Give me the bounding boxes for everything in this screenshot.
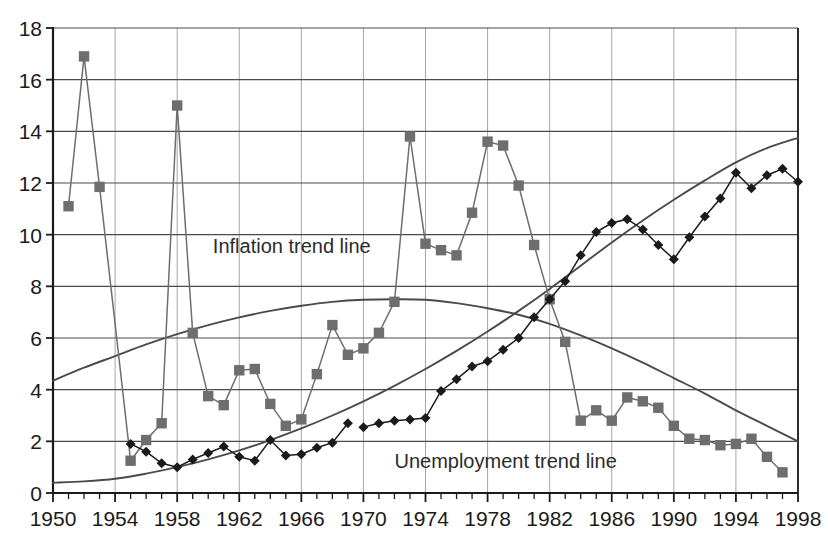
data-point-marker xyxy=(591,227,601,237)
data-point-marker xyxy=(451,250,461,260)
data-point-marker xyxy=(622,392,632,402)
data-point-marker xyxy=(358,343,368,353)
data-point-marker xyxy=(436,245,446,255)
x-axis-tick-label: 1954 xyxy=(92,507,139,530)
data-point-marker xyxy=(234,452,244,462)
data-point-marker xyxy=(746,434,756,444)
x-axis-tick-label: 1998 xyxy=(775,507,822,530)
inflation-unemployment-chart: 024681012141618 195019541958196219661970… xyxy=(0,0,828,551)
chart-annotations: Inflation trend lineUnemployment trend l… xyxy=(213,235,617,473)
data-point-marker xyxy=(653,403,663,413)
x-axis-tick-label: 1950 xyxy=(30,507,77,530)
data-point-marker xyxy=(420,239,430,249)
data-point-marker xyxy=(312,443,322,453)
x-axis-tick-label: 1958 xyxy=(154,507,201,530)
data-point-marker xyxy=(777,467,787,477)
data-point-marker xyxy=(203,448,213,458)
data-point-marker xyxy=(482,136,492,146)
x-axis-tick-label: 1966 xyxy=(278,507,325,530)
data-point-marker xyxy=(327,320,337,330)
data-point-marker xyxy=(467,208,477,218)
x-axis-labels: 1950195419581962196619701974197819821986… xyxy=(30,507,822,530)
data-point-marker xyxy=(187,328,197,338)
data-point-marker xyxy=(172,100,182,110)
data-point-marker xyxy=(421,413,431,423)
y-axis-tick-label: 18 xyxy=(19,17,42,40)
data-point-marker xyxy=(684,434,694,444)
y-axis-tick-label: 6 xyxy=(30,327,42,350)
data-point-marker xyxy=(498,140,508,150)
data-point-marker xyxy=(141,435,151,445)
data-point-marker xyxy=(374,328,384,338)
data-point-marker xyxy=(405,414,415,424)
data-point-marker xyxy=(405,131,415,141)
data-point-marker xyxy=(669,421,679,431)
data-point-marker xyxy=(607,218,617,228)
data-point-marker xyxy=(219,442,229,452)
data-point-marker xyxy=(576,250,586,260)
data-point-marker xyxy=(125,456,135,466)
data-point-marker xyxy=(607,415,617,425)
y-axis-tick-label: 2 xyxy=(30,430,42,453)
data-point-marker xyxy=(343,350,353,360)
x-axis-tick-label: 1994 xyxy=(713,507,760,530)
data-point-marker xyxy=(389,416,399,426)
data-point-marker xyxy=(715,440,725,450)
y-axis-tick-label: 14 xyxy=(19,120,43,143)
x-axis-tick-label: 1982 xyxy=(526,507,573,530)
data-point-marker xyxy=(560,337,570,347)
data-point-marker xyxy=(700,435,710,445)
data-point-marker xyxy=(296,449,306,459)
y-axis-tick-label: 12 xyxy=(19,172,42,195)
data-point-marker xyxy=(576,415,586,425)
series-line xyxy=(363,169,798,427)
x-axis-tick-label: 1986 xyxy=(588,507,635,530)
data-point-marker xyxy=(638,396,648,406)
data-point-marker xyxy=(374,418,384,428)
data-point-marker xyxy=(234,365,244,375)
data-point-marker xyxy=(219,400,229,410)
chart-annotation-label: Unemployment trend line xyxy=(394,450,616,472)
y-axis-tick-label: 0 xyxy=(30,482,42,505)
x-axis-tick-label: 1970 xyxy=(340,507,387,530)
data-point-marker xyxy=(762,452,772,462)
data-point-marker xyxy=(513,180,523,190)
series-unemployment xyxy=(126,164,803,472)
x-axis-tick-label: 1978 xyxy=(464,507,511,530)
data-point-marker xyxy=(250,364,260,374)
x-axis-tick-label: 1990 xyxy=(650,507,697,530)
data-point-marker xyxy=(265,399,275,409)
x-axis-tick-label: 1974 xyxy=(402,507,449,530)
data-point-marker xyxy=(63,201,73,211)
data-point-marker xyxy=(529,240,539,250)
data-point-marker xyxy=(622,214,632,224)
x-axis-tick-label: 1962 xyxy=(216,507,263,530)
y-axis-tick-label: 8 xyxy=(30,275,42,298)
data-point-marker xyxy=(126,439,136,449)
data-point-marker xyxy=(296,414,306,424)
data-point-marker xyxy=(591,405,601,415)
y-axis-tick-label: 4 xyxy=(30,379,42,402)
data-point-marker xyxy=(358,422,368,432)
chart-svg: 024681012141618 195019541958196219661970… xyxy=(0,0,828,551)
data-point-marker xyxy=(312,369,322,379)
data-point-marker xyxy=(94,182,104,192)
data-point-marker xyxy=(79,51,89,61)
y-axis-labels: 024681012141618 xyxy=(19,17,43,505)
x-axis-ticks xyxy=(53,493,798,502)
data-point-marker xyxy=(731,439,741,449)
y-axis-tick-label: 16 xyxy=(19,69,42,92)
chart-annotation-label: Inflation trend line xyxy=(213,235,371,257)
data-point-marker xyxy=(203,391,213,401)
data-point-marker xyxy=(172,462,182,472)
data-point-marker xyxy=(156,418,166,428)
y-axis-tick-label: 10 xyxy=(19,224,42,247)
data-point-marker xyxy=(281,421,291,431)
data-point-marker xyxy=(389,297,399,307)
